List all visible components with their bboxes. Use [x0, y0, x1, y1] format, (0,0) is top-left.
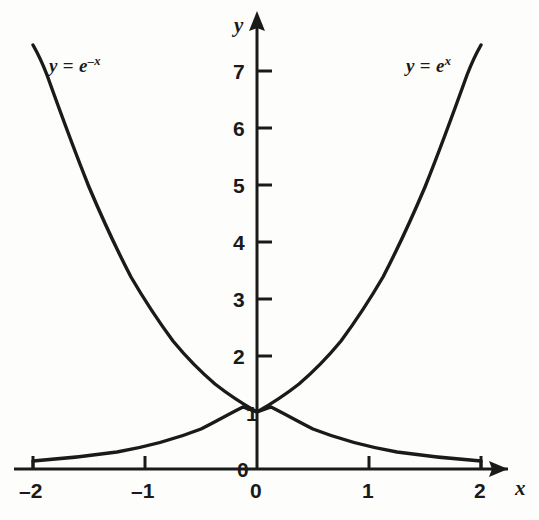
x-tick-label-0: 0 [250, 480, 262, 501]
x-axis-label: x [515, 478, 526, 499]
y-axis-arrow-icon [249, 11, 265, 31]
y-tick-label-4: 4 [233, 232, 245, 253]
y-tick-label-2: 2 [233, 346, 245, 367]
curve-label-exp-neg-x: y = e–x [49, 56, 101, 75]
plot-canvas [0, 0, 539, 520]
x-tick-label-2: 2 [474, 480, 486, 501]
y-tick-label-1: 1 [246, 403, 258, 424]
y-axis-label: y [234, 15, 243, 36]
y-tick-label-3: 3 [233, 289, 245, 310]
exponential-functions-figure: y x 7 6 5 4 3 2 1 0 –2 –1 0 1 2 y = e–x … [0, 0, 539, 520]
y-tick-label-0: 0 [237, 459, 249, 480]
curve-label-exp-x: y = ex [406, 56, 451, 75]
x-tick-label-neg2: –2 [19, 480, 42, 501]
y-tick-label-7: 7 [233, 61, 245, 82]
x-tick-label-neg1: –1 [131, 480, 154, 501]
y-tick-label-5: 5 [233, 175, 245, 196]
y-tick-label-6: 6 [233, 118, 245, 139]
x-tick-label-1: 1 [362, 480, 374, 501]
